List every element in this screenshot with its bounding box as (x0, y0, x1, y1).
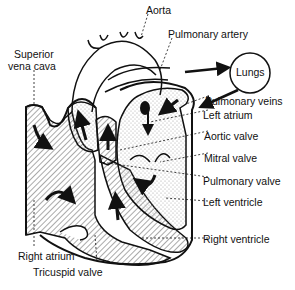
label-right-ventricle: Right ventricle (203, 233, 270, 245)
label-tricuspid-valve: Tricuspid valve (33, 266, 103, 278)
label-pulmonary-valve: Pulmonary valve (203, 175, 281, 187)
aortic-branches (100, 32, 143, 40)
label-right-atrium: Right atrium (18, 250, 75, 262)
label-superior-vena-cava-1: Superior (14, 48, 54, 60)
label-left-ventricle: Left ventricle (203, 196, 263, 208)
label-pulmonary-artery: Pulmonary artery (168, 28, 248, 40)
label-aorta: Aorta (146, 4, 171, 16)
label-mitral-valve: Mitral valve (204, 152, 257, 164)
heart-diagram (0, 0, 295, 290)
label-superior-vena-cava-2: vena cava (8, 60, 56, 72)
la-blob (140, 101, 150, 115)
pulmonary-artery-column (96, 116, 116, 165)
label-left-atrium: Left atrium (203, 109, 253, 121)
label-lungs: Lungs (236, 66, 265, 78)
label-aortic-valve: Aortic valve (204, 130, 258, 142)
flow-arrow-rv-up (116, 200, 118, 220)
arrow-to-lungs (185, 68, 224, 72)
label-pulmonary-veins: Pulmonary veins (205, 95, 283, 107)
